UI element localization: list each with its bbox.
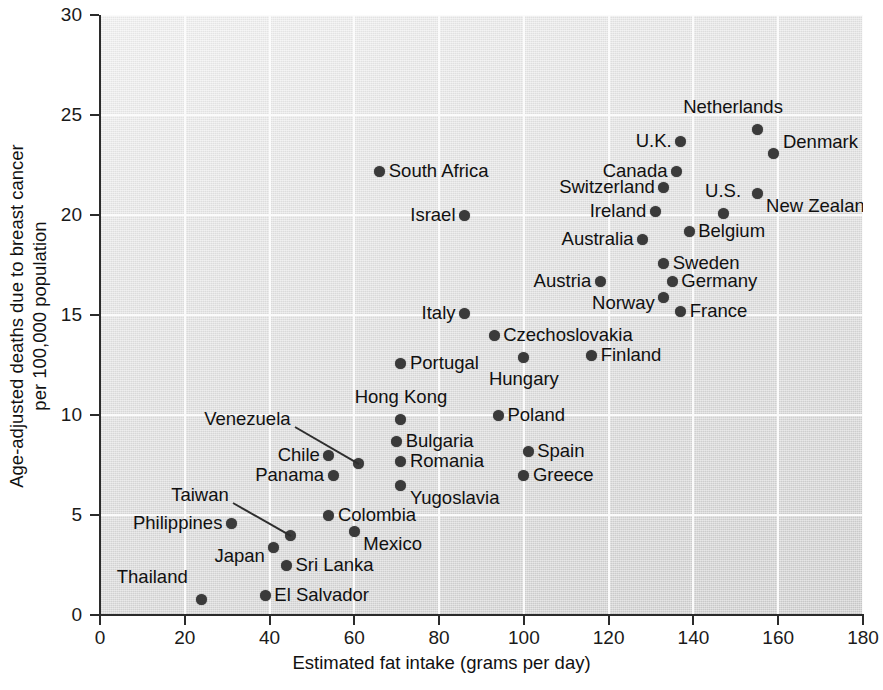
x-axis-line: [99, 614, 864, 616]
y-tick-label-10: 10: [48, 405, 82, 424]
point-label: U.K.: [636, 132, 672, 151]
point-label: U.S.: [705, 182, 741, 201]
y-tick-label-5: 5: [48, 505, 82, 524]
x-tick-mark-60: [353, 616, 355, 625]
y-axis-line: [99, 15, 101, 616]
point-label: Israel: [410, 206, 455, 225]
point-label: Bulgaria: [406, 432, 474, 451]
point-label: Portugal: [410, 354, 479, 373]
gridline-y-15: [100, 314, 863, 316]
point-label: Italy: [422, 304, 456, 323]
y-axis-title-wrapper: Age-adjusted deaths due to breast cancer…: [5, 81, 53, 551]
data-point[interactable]: [196, 594, 207, 605]
point-label: Japan: [214, 547, 264, 566]
point-label: Czechoslovakia: [503, 326, 633, 345]
data-point[interactable]: [675, 306, 686, 317]
point-label: Germany: [681, 272, 757, 291]
point-label: Hungary: [489, 370, 559, 389]
data-point[interactable]: [395, 414, 406, 425]
point-label: Romania: [410, 452, 484, 471]
point-label: El Salvador: [274, 586, 369, 605]
data-point[interactable]: [518, 470, 529, 481]
plot-area: ThailandEl SalvadorSri LankaJapanTaiwanM…: [100, 15, 863, 615]
y-tick-mark-10: [90, 414, 99, 416]
y-tick-mark-0: [90, 614, 99, 616]
point-label: Sri Lanka: [296, 556, 374, 575]
point-label: New Zealand: [766, 197, 863, 216]
data-point[interactable]: [395, 456, 406, 467]
data-point[interactable]: [349, 526, 360, 537]
data-point[interactable]: [718, 208, 729, 219]
data-point[interactable]: [489, 330, 500, 341]
data-point[interactable]: [391, 436, 402, 447]
point-label: Spain: [537, 442, 584, 461]
data-point[interactable]: [684, 226, 695, 237]
point-label: Taiwan: [171, 486, 229, 505]
data-point[interactable]: [374, 166, 385, 177]
data-point[interactable]: [752, 124, 763, 135]
data-point[interactable]: [658, 292, 669, 303]
data-point[interactable]: [323, 510, 334, 521]
data-point[interactable]: [459, 308, 470, 319]
data-point[interactable]: [523, 446, 534, 457]
x-tick-mark-20: [184, 616, 186, 625]
data-point[interactable]: [637, 234, 648, 245]
y-tick-mark-20: [90, 214, 99, 216]
x-tick-mark-120: [608, 616, 610, 625]
point-label: France: [690, 302, 748, 321]
x-tick-label-80: 80: [409, 628, 469, 647]
point-label: Poland: [507, 406, 565, 425]
x-tick-label-40: 40: [240, 628, 300, 647]
data-point[interactable]: [268, 542, 279, 553]
y-tick-label-15: 15: [48, 305, 82, 324]
point-label: Hong Kong: [355, 388, 448, 407]
point-label: Philippines: [133, 514, 222, 533]
point-label: Greece: [533, 466, 594, 485]
data-point[interactable]: [586, 350, 597, 361]
data-point[interactable]: [459, 210, 470, 221]
point-label: Yugoslavia: [410, 489, 499, 508]
point-label: Canada: [603, 162, 668, 181]
data-point[interactable]: [658, 182, 669, 193]
point-label: Denmark: [783, 133, 858, 152]
data-point[interactable]: [671, 166, 682, 177]
data-point[interactable]: [752, 188, 763, 199]
point-label: Colombia: [338, 506, 416, 525]
data-point[interactable]: [395, 480, 406, 491]
data-point[interactable]: [226, 518, 237, 529]
x-tick-label-120: 120: [579, 628, 639, 647]
y-axis-title: Age-adjusted deaths due to breast cancer…: [6, 144, 52, 488]
point-label: Australia: [562, 230, 634, 249]
data-point[interactable]: [260, 590, 271, 601]
gridline-y-20: [100, 214, 863, 216]
y-tick-mark-30: [90, 14, 99, 16]
data-point[interactable]: [658, 258, 669, 269]
x-axis-title: Estimated fat intake (grams per day): [0, 652, 883, 674]
point-label: Austria: [534, 272, 592, 291]
data-point[interactable]: [395, 358, 406, 369]
data-point[interactable]: [493, 410, 504, 421]
point-label: Sweden: [673, 254, 740, 273]
y-tick-mark-15: [90, 314, 99, 316]
data-point[interactable]: [768, 148, 779, 159]
x-tick-mark-160: [777, 616, 779, 625]
data-point[interactable]: [518, 352, 529, 363]
y-tick-label-25: 25: [48, 105, 82, 124]
data-point[interactable]: [323, 450, 334, 461]
x-tick-mark-140: [692, 616, 694, 625]
x-tick-mark-100: [523, 616, 525, 625]
x-tick-label-20: 20: [155, 628, 215, 647]
data-point[interactable]: [650, 206, 661, 217]
data-point[interactable]: [595, 276, 606, 287]
point-label: Finland: [601, 346, 662, 365]
point-label: Panama: [255, 466, 324, 485]
point-label: Thailand: [117, 568, 188, 587]
data-point[interactable]: [328, 470, 339, 481]
x-tick-label-140: 140: [663, 628, 723, 647]
x-tick-label-160: 160: [748, 628, 808, 647]
data-point[interactable]: [675, 136, 686, 147]
x-tick-mark-80: [438, 616, 440, 625]
data-point[interactable]: [667, 276, 678, 287]
data-point[interactable]: [281, 560, 292, 571]
point-label: Netherlands: [683, 98, 783, 117]
